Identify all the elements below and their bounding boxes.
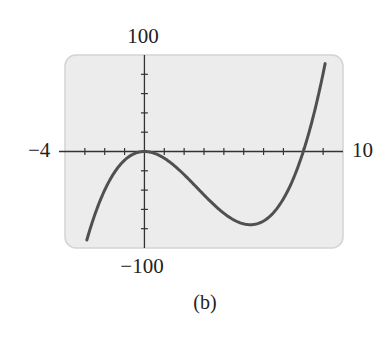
figure-caption: (b) <box>193 292 216 312</box>
y-max-label: 100 <box>127 26 159 47</box>
y-min-label: −100 <box>120 256 163 277</box>
graph-window <box>0 0 391 337</box>
x-min-label: −4 <box>28 140 50 161</box>
x-max-label: 10 <box>352 140 373 161</box>
